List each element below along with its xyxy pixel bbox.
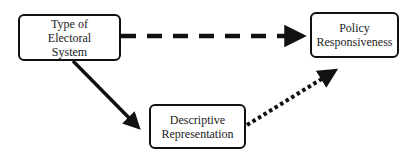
edge-electoral-to-descriptive bbox=[73, 61, 137, 126]
node-label-line: Policy bbox=[339, 21, 370, 35]
node-type-of-electoral-system: Type of Electoral System bbox=[18, 14, 121, 61]
node-policy-responsiveness: Policy Responsiveness bbox=[310, 12, 399, 58]
node-descriptive-representation: Descriptive Representation bbox=[149, 104, 246, 149]
node-label-line: System bbox=[52, 45, 87, 59]
node-label-line: Representation bbox=[162, 127, 234, 141]
node-label-line: Electoral bbox=[48, 31, 91, 45]
node-label-line: Descriptive bbox=[170, 113, 225, 127]
node-label-line: Responsiveness bbox=[317, 35, 393, 49]
node-label-line: Type of bbox=[51, 17, 88, 31]
edge-descriptive-to-policy bbox=[247, 72, 333, 125]
